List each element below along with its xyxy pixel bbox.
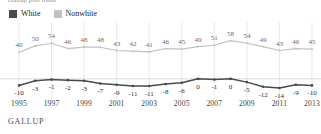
data-label-nonwhite: 45	[309, 38, 316, 46]
x-axis-tick-2005: 2005	[174, 99, 190, 108]
data-label-white: -10	[307, 89, 316, 97]
data-label-nonwhite: 46	[162, 38, 169, 46]
data-point	[294, 83, 297, 86]
data-point	[99, 82, 102, 85]
data-point	[148, 51, 150, 53]
x-axis-tick-2011: 2011	[272, 99, 288, 108]
data-point	[18, 51, 20, 53]
data-point	[67, 79, 70, 82]
gallup-line-chart: Gallup poll trend White Nonwhite 4050544…	[0, 0, 321, 134]
legend-item-nonwhite[interactable]: Nonwhite	[54, 9, 98, 18]
legend-label-white: White	[21, 9, 41, 18]
chart-legend: White Nonwhite	[9, 8, 97, 19]
data-label-nonwhite: 48	[81, 36, 88, 44]
data-point	[181, 48, 183, 50]
data-label-nonwhite: 46	[292, 38, 299, 46]
data-label-white: -12	[258, 91, 267, 99]
legend-item-white[interactable]: White	[9, 9, 41, 18]
data-label-white: -11	[145, 90, 154, 98]
data-point	[51, 42, 53, 44]
data-label-nonwhite: 54	[243, 32, 250, 40]
legend-label-nonwhite: Nonwhite	[66, 9, 98, 18]
data-point	[213, 78, 216, 81]
data-point	[295, 48, 297, 50]
data-point	[229, 78, 232, 81]
data-label-white: 0	[196, 83, 200, 91]
data-label-white: -8	[163, 88, 169, 96]
data-label-white: -11	[128, 90, 137, 98]
data-point	[246, 81, 249, 84]
data-point	[213, 44, 215, 46]
data-label-white: -3	[81, 85, 87, 93]
data-label-nonwhite: 45	[178, 38, 185, 46]
data-label-nonwhite: 43	[276, 40, 283, 48]
data-point	[116, 50, 118, 52]
x-axis-tick-1997: 1997	[44, 99, 60, 108]
data-label-nonwhite: 49	[195, 36, 202, 44]
data-label-nonwhite: 58	[227, 30, 234, 38]
data-label-white: -9	[293, 89, 299, 97]
data-label-nonwhite: 43	[113, 40, 120, 48]
data-point	[148, 85, 151, 88]
x-axis-year-labels: 1995199719992001200320052007200920112013	[0, 99, 321, 113]
x-axis-tick-2009: 2009	[239, 99, 255, 108]
x-axis-tick-1995: 1995	[11, 99, 27, 108]
data-point	[246, 42, 248, 44]
data-label-nonwhite: 50	[32, 35, 39, 43]
clipped-title: Gallup poll trend	[8, 0, 308, 5]
data-label-white: -10	[14, 89, 23, 97]
data-point	[311, 84, 314, 87]
data-label-nonwhite: 41	[146, 41, 153, 49]
clipped-title-text: Gallup poll trend	[8, 0, 308, 4]
data-label-white: -1	[211, 83, 217, 91]
data-point	[262, 85, 265, 88]
x-axis-tick-2003: 2003	[141, 99, 157, 108]
data-point	[50, 78, 53, 81]
data-label-white: -9	[114, 89, 120, 97]
data-point	[83, 46, 85, 48]
data-label-white: -5	[244, 86, 250, 94]
legend-swatch-nonwhite	[54, 10, 62, 18]
data-point	[197, 78, 200, 81]
data-point	[278, 50, 280, 52]
x-axis-tick-2007: 2007	[206, 99, 222, 108]
source-attribution: GALLUP	[8, 117, 44, 126]
data-point	[18, 84, 21, 87]
data-point	[132, 50, 134, 52]
data-point	[99, 46, 101, 48]
data-label-white: -1	[49, 83, 55, 91]
data-point	[197, 46, 199, 48]
data-label-white: -3	[32, 85, 38, 93]
data-point	[164, 83, 167, 86]
data-label-nonwhite: 48	[97, 36, 104, 44]
data-point	[278, 87, 281, 90]
data-point	[132, 85, 135, 88]
data-label-white: 0	[229, 83, 233, 91]
data-label-white: -2	[65, 84, 71, 92]
data-label-white: -7	[97, 87, 103, 95]
data-point	[83, 80, 86, 83]
data-point	[34, 80, 37, 83]
data-label-white: -6	[179, 87, 185, 95]
x-axis-tick-2001: 2001	[109, 99, 125, 108]
x-axis-tick-2013: 2013	[304, 99, 320, 108]
data-label-nonwhite: 54	[48, 32, 55, 40]
data-point	[67, 48, 69, 50]
data-label-nonwhite: 42	[129, 40, 136, 48]
data-label-nonwhite: 49	[260, 36, 267, 44]
data-point	[115, 83, 118, 86]
data-label-nonwhite: 40	[16, 41, 23, 49]
data-point	[34, 45, 36, 47]
data-label-nonwhite: 51	[211, 34, 218, 42]
data-label-nonwhite: 46	[64, 38, 71, 46]
plot-area: 40505446484843424146454951585449434645-1…	[0, 22, 321, 100]
legend-swatch-white	[9, 10, 17, 18]
x-axis-tick-1999: 1999	[76, 99, 92, 108]
data-point	[311, 48, 313, 50]
data-point	[262, 46, 264, 48]
data-point	[230, 40, 232, 42]
data-point	[180, 81, 183, 84]
data-point	[165, 48, 167, 50]
